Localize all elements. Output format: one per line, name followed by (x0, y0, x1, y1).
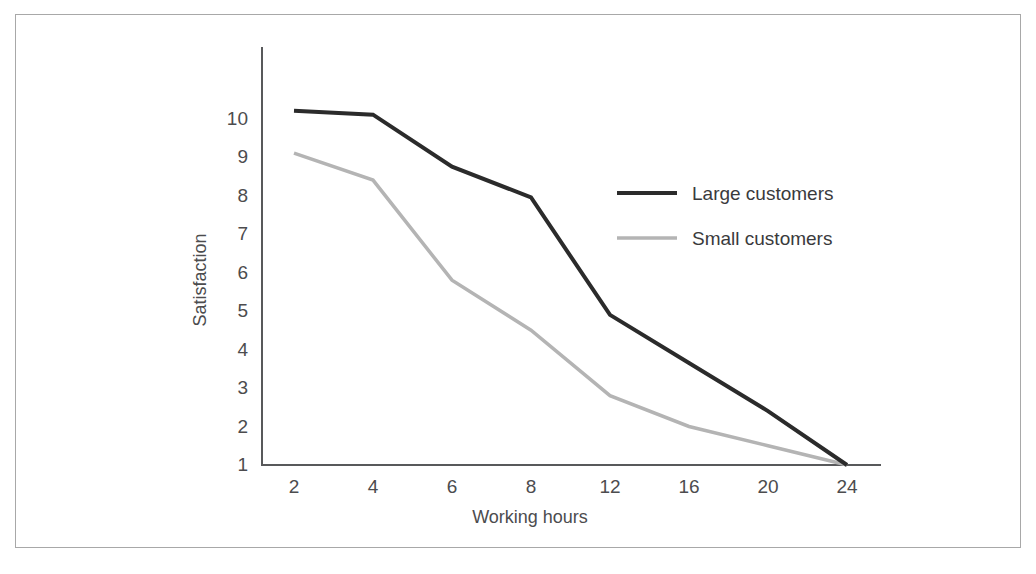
legend-label-small-customers: Small customers (692, 228, 832, 249)
chart-legend: Large customers Small customers (617, 183, 834, 249)
legend-label-large-customers: Large customers (692, 183, 834, 204)
y-tick-label: 10 (227, 108, 248, 129)
y-tick-label: 4 (237, 339, 248, 360)
y-axis-tick-labels: 10 9 8 7 6 5 4 3 2 1 (227, 108, 249, 475)
series-line-large-customers (294, 111, 847, 465)
line-chart-plot: 10 9 8 7 6 5 4 3 2 1 2 4 6 8 12 16 20 24… (0, 0, 1036, 574)
chart-figure: 10 9 8 7 6 5 4 3 2 1 2 4 6 8 12 16 20 24… (0, 0, 1036, 574)
x-tick-label: 20 (757, 476, 778, 497)
y-axis-title: Satisfaction (190, 233, 210, 326)
x-tick-label: 24 (836, 476, 858, 497)
y-tick-label: 5 (237, 300, 248, 321)
x-tick-label: 4 (368, 476, 379, 497)
y-tick-label: 1 (237, 454, 248, 475)
x-tick-label: 2 (289, 476, 300, 497)
x-tick-label: 8 (526, 476, 537, 497)
x-tick-label: 12 (599, 476, 620, 497)
x-axis-tick-labels: 2 4 6 8 12 16 20 24 (289, 476, 858, 497)
y-tick-label: 3 (237, 377, 248, 398)
y-tick-label: 2 (237, 416, 248, 437)
y-tick-label: 7 (237, 223, 248, 244)
x-tick-label: 16 (678, 476, 699, 497)
y-tick-label: 8 (237, 185, 248, 206)
y-tick-label: 6 (237, 262, 248, 283)
x-axis-title: Working hours (472, 507, 588, 527)
y-tick-label: 9 (237, 146, 248, 167)
x-tick-label: 6 (447, 476, 458, 497)
